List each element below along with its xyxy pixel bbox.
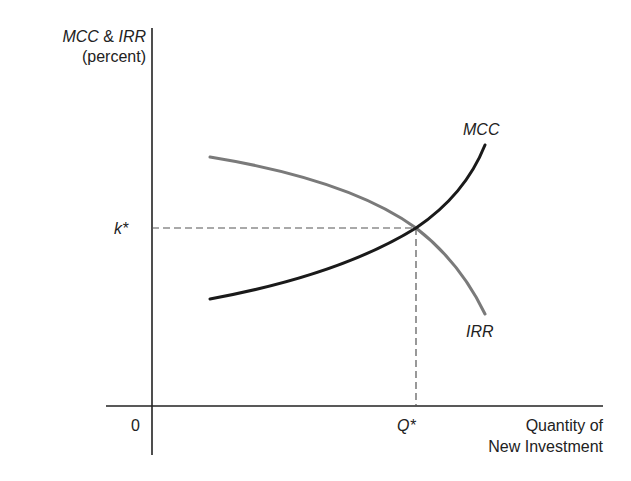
y-axis-label-amp: & [99, 28, 119, 45]
y-axis-label: MCC & IRR (percent) [62, 27, 146, 67]
origin-label: 0 [131, 416, 140, 435]
q-star-label: Q* [397, 416, 416, 435]
x-axis-label-line1: Quantity of [488, 415, 603, 436]
y-axis-label-irr: IRR [118, 28, 146, 45]
mcc-curve [210, 145, 485, 299]
y-axis-label-mcc: MCC [62, 28, 98, 45]
x-axis-label-line2: New Investment [488, 436, 603, 457]
x-axis-label: Quantity of New Investment [488, 415, 603, 457]
mcc-curve-label: MCC [463, 120, 499, 139]
k-star-label: k* [114, 219, 128, 238]
chart-canvas [0, 0, 631, 481]
irr-curve-label: IRR [466, 322, 494, 341]
y-axis-label-unit: (percent) [62, 47, 146, 67]
